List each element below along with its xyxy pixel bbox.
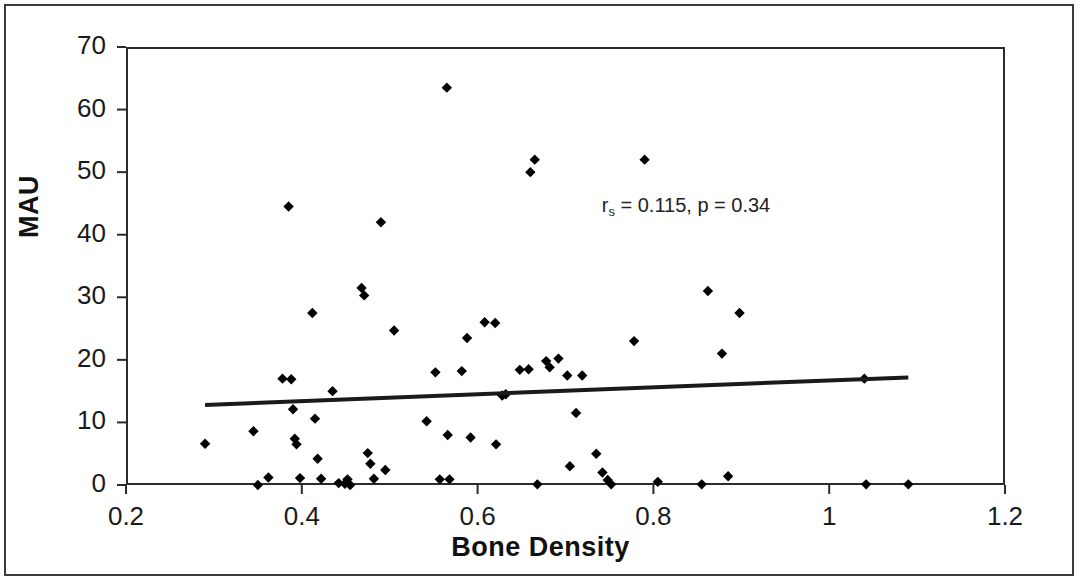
correlation-annotation: rs = 0.115, p = 0.34 xyxy=(602,194,770,217)
y-tick-label: 30 xyxy=(0,280,124,311)
data-point xyxy=(629,336,639,346)
x-tick-label: 0.2 xyxy=(66,501,186,532)
data-point xyxy=(457,366,467,376)
data-point xyxy=(532,479,542,489)
data-point xyxy=(444,474,454,484)
data-point xyxy=(639,154,649,164)
y-tick-label: 60 xyxy=(0,93,124,124)
data-point xyxy=(283,201,293,211)
data-point xyxy=(277,373,287,383)
annotation-subscript: s xyxy=(608,204,615,219)
chart-canvas xyxy=(0,0,1081,584)
data-point xyxy=(435,474,445,484)
data-point xyxy=(697,479,707,489)
data-point xyxy=(591,449,601,459)
data-point xyxy=(286,374,296,384)
data-point xyxy=(577,370,587,380)
data-point xyxy=(523,364,533,374)
data-point xyxy=(903,479,913,489)
trendline xyxy=(205,377,908,405)
scatter-plot-figure: 010203040506070 0.20.40.60.811.2 MAU Bon… xyxy=(0,0,1081,584)
annotation-values: = 0.115, p = 0.34 xyxy=(615,194,770,216)
data-point xyxy=(310,413,320,423)
data-point xyxy=(327,386,337,396)
data-point xyxy=(491,439,501,449)
data-point xyxy=(734,308,744,318)
data-point xyxy=(200,439,210,449)
data-point xyxy=(515,365,525,375)
x-tick-label: 0.6 xyxy=(418,501,538,532)
data-point xyxy=(376,217,386,227)
data-point xyxy=(703,286,713,296)
y-tick-label: 0 xyxy=(0,468,124,499)
y-axis-title: MAU xyxy=(14,175,45,238)
data-point xyxy=(565,461,575,471)
data-point xyxy=(442,82,452,92)
data-point xyxy=(312,454,322,464)
data-point xyxy=(479,317,489,327)
data-point xyxy=(562,370,572,380)
data-point xyxy=(248,426,258,436)
data-point xyxy=(861,479,871,489)
data-point xyxy=(553,353,563,363)
data-point xyxy=(263,472,273,482)
data-point xyxy=(369,474,379,484)
data-point xyxy=(295,473,305,483)
data-point xyxy=(430,367,440,377)
y-tick-label: 10 xyxy=(0,405,124,436)
x-tick-label: 1.2 xyxy=(945,501,1065,532)
x-tick-label: 1 xyxy=(769,501,889,532)
data-points-group xyxy=(200,82,914,490)
data-point xyxy=(465,432,475,442)
x-tick-label: 0.8 xyxy=(593,501,713,532)
data-point xyxy=(253,480,263,490)
trendline-path xyxy=(205,377,908,405)
data-point xyxy=(597,467,607,477)
data-point xyxy=(307,308,317,318)
data-point xyxy=(380,465,390,475)
data-point xyxy=(525,167,535,177)
data-point xyxy=(723,471,733,481)
x-axis-title: Bone Density xyxy=(0,532,1081,563)
data-point xyxy=(316,474,326,484)
x-tick-label: 0.4 xyxy=(242,501,362,532)
axis-ticks xyxy=(117,47,1005,494)
data-point xyxy=(490,318,500,328)
y-tick-label: 20 xyxy=(0,343,124,374)
data-point xyxy=(571,408,581,418)
data-point xyxy=(363,448,373,458)
data-point xyxy=(530,154,540,164)
data-point xyxy=(288,404,298,414)
data-point xyxy=(462,333,472,343)
data-point xyxy=(389,325,399,335)
y-tick-label: 70 xyxy=(0,30,124,61)
data-point xyxy=(717,348,727,358)
data-point xyxy=(365,459,375,469)
data-point xyxy=(421,416,431,426)
data-point xyxy=(443,430,453,440)
